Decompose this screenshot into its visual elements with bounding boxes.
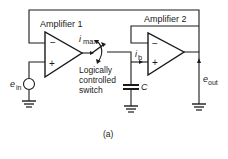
amp2-feedback-wire [131,26,199,43]
sample-hold-circuit-diagram: − + Amplifier 1 e in i max Logically con… [0,0,228,159]
input-source-icon [24,79,35,90]
amp2-minus-sign: − [152,38,158,49]
switch-label-line2: controlled [79,75,116,85]
eout-arrow-icon [197,58,201,63]
imax-label: i [79,34,82,44]
amplifier1-label: Amplifier 1 [40,19,83,29]
input-wire [29,62,45,78]
capacitor-icon [123,85,139,89]
ground-icon-input [22,101,36,107]
switch-actuator-arrow-icon [97,41,102,62]
arrowhead-icon [96,59,101,64]
output-label-sub: out [208,79,218,86]
switch-label-line1: Logically [79,65,113,75]
input-label: e [10,79,15,89]
amplifier2-label: Amplifier 2 [144,14,187,24]
figure-caption: (a) [103,129,114,139]
amp1-minus-sign: − [50,37,56,48]
amp1-plus-sign: + [49,58,55,69]
ib-label-sub: b [138,53,142,62]
capacitor-label: C [141,82,148,92]
imax-label-sub: max [83,37,97,46]
amp2-plus-sign: + [152,57,158,68]
input-label-sub: in [16,84,22,91]
amp2-output-wire [184,52,199,104]
ground-icon-capacitor [124,106,138,112]
switch-label-line3: switch [79,85,103,95]
ground-icon-output [192,104,206,110]
